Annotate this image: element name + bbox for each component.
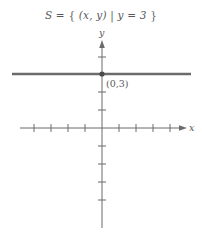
title-set-name: S: [45, 9, 52, 21]
title-open-brace: {: [68, 9, 75, 21]
title-ordered-pair: (x, y): [79, 9, 107, 21]
title-condition: y = 3: [118, 9, 147, 21]
title-close-brace: }: [150, 9, 157, 21]
point-label-0-3: (0,3): [106, 78, 129, 89]
y-axis-label: y: [99, 27, 104, 38]
x-axis-label: x: [189, 122, 194, 133]
point-marker-0-3: [99, 71, 104, 76]
x-axis-arrowhead: [179, 125, 187, 131]
title-equals: =: [56, 9, 65, 21]
y-axis-arrowhead: [99, 40, 105, 48]
graph-figure: S = { (x, y) | y = 3 }: [0, 0, 202, 232]
figure-title: S = { (x, y) | y = 3 }: [0, 9, 202, 21]
title-such-that-bar: |: [110, 9, 114, 21]
